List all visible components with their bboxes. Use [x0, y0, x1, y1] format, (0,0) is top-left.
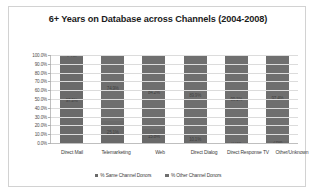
y-tick-mark: [48, 64, 51, 65]
y-tick-mark: [48, 125, 51, 126]
legend-swatch-icon: [165, 174, 169, 178]
bar-data-label: 0.9%: [225, 142, 248, 143]
bar-data-label: 10.1%: [184, 136, 207, 141]
y-tick-mark: [48, 99, 51, 100]
y-tick-label: 60.0%: [35, 88, 47, 93]
gridline: [51, 117, 298, 118]
bar-segment-same-channel[interactable]: 15.8%: [142, 129, 165, 143]
y-tick-label: 10.0%: [35, 132, 47, 137]
y-tick-mark: [48, 143, 51, 144]
y-tick-label: 0.0%: [37, 141, 47, 146]
bar-segment-other-channel[interactable]: 74.9%: [101, 55, 124, 121]
bar-segment-other-channel[interactable]: 84.2%: [142, 55, 165, 129]
legend-label: % Same Channel Donors: [100, 173, 151, 178]
plot-area: 2.7%97.3%74.9%25.1%84.2%15.8%89.9%10.1%9…: [50, 55, 298, 144]
y-tick-mark: [48, 134, 51, 135]
x-axis-category-label: Direct Response TV: [226, 149, 270, 155]
bar-segment-other-channel[interactable]: 97.4%: [266, 55, 289, 141]
bar-segment-same-channel[interactable]: 0.9%: [225, 142, 248, 143]
chart-container: 6+ Years on Database across Channels (20…: [8, 6, 306, 187]
y-tick-label: 80.0%: [35, 70, 47, 75]
bar-segment-same-channel[interactable]: 25.1%: [101, 121, 124, 143]
gridline: [51, 134, 298, 135]
chart-legend: % Same Channel Donors% Other Channel Don…: [9, 173, 307, 178]
gridline: [51, 73, 298, 74]
y-tick-mark: [48, 73, 51, 74]
legend-entry[interactable]: % Other Channel Donors: [165, 173, 221, 178]
y-tick-label: 90.0%: [35, 61, 47, 66]
y-tick-mark: [48, 81, 51, 82]
bar-segment-other-channel[interactable]: 89.9%: [184, 55, 207, 134]
gridline: [51, 99, 298, 100]
x-axis-category-label: Other/Unknown: [270, 149, 314, 155]
gridline: [51, 81, 298, 82]
x-axis-labels: Direct MailTelemarketingWebDirect Dialog…: [50, 149, 314, 155]
gridline: [51, 64, 298, 65]
y-tick-mark: [48, 117, 51, 118]
gridline: [51, 90, 298, 91]
x-axis-category-label: Telemarketing: [94, 149, 138, 155]
chart-title: 6+ Years on Database across Channels (20…: [23, 14, 293, 26]
bar-data-label: 89.9%: [184, 92, 207, 97]
y-tick-mark: [48, 90, 51, 91]
x-axis-category-label: Direct Mail: [50, 149, 94, 155]
x-axis-category-label: Web: [138, 149, 182, 155]
legend-swatch-icon: [95, 174, 99, 178]
y-tick-label: 50.0%: [35, 97, 47, 102]
y-tick-label: 20.0%: [35, 123, 47, 128]
y-axis: 100.0%90.0%80.0%70.0%60.0%50.0%40.0%30.0…: [22, 55, 49, 150]
plot-wrapper: 100.0%90.0%80.0%70.0%60.0%50.0%40.0%30.0…: [22, 55, 298, 150]
y-tick-label: 40.0%: [35, 105, 47, 110]
y-tick-label: 100.0%: [32, 53, 47, 58]
y-tick-label: 70.0%: [35, 79, 47, 84]
bar-segment-same-channel[interactable]: 2.6%: [266, 141, 289, 143]
gridline: [51, 108, 298, 109]
gridline: [51, 125, 298, 126]
y-tick-label: 30.0%: [35, 114, 47, 119]
legend-label: % Other Channel Donors: [171, 173, 221, 178]
legend-entry[interactable]: % Same Channel Donors: [95, 173, 152, 178]
bar-data-label: 2.6%: [266, 141, 289, 143]
y-tick-mark: [48, 108, 51, 109]
gridline: [51, 55, 298, 56]
y-tick-mark: [48, 55, 51, 56]
x-axis-category-label: Direct Dialog: [182, 149, 226, 155]
bar-segment-same-channel[interactable]: 97.3%: [60, 57, 83, 143]
bar-segment-same-channel[interactable]: 10.1%: [184, 134, 207, 143]
